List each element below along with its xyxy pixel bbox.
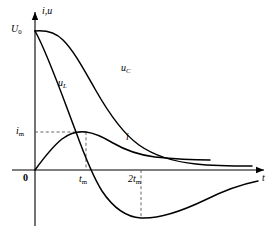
- curve-label-uC-sub: C: [126, 67, 131, 74]
- y-tick-label-U0: U0: [11, 24, 22, 34]
- curve-uL: [35, 31, 258, 218]
- curve-label-i: i: [126, 132, 129, 142]
- curve-uC: [35, 31, 252, 166]
- y-tick-U0-sub: 0: [18, 28, 21, 35]
- curve-label-uC: uC: [121, 63, 131, 73]
- y-axis-label: i,u: [42, 6, 52, 16]
- curve-label-uL: uL: [58, 78, 67, 88]
- y-tick-label-im: im: [16, 126, 24, 136]
- x-tick-label-tm: tm: [79, 174, 87, 184]
- y-axis-arrowhead: [32, 12, 38, 20]
- axes-group: [12, 12, 264, 226]
- plot-canvas: [0, 0, 277, 234]
- x-axis-label: t: [262, 173, 265, 183]
- x-tick-label-2tm: 2tm: [128, 174, 141, 184]
- x-tick-tm-sub: m: [82, 178, 87, 185]
- curve-label-i-main: i: [126, 131, 129, 142]
- transient-response-figure: i,u t 0 U0 im tm 2tm uC uL i: [0, 0, 277, 234]
- x-tick-2tm-sub: m: [136, 178, 141, 185]
- curves-group: [35, 31, 258, 218]
- reference-lines-group: [35, 132, 141, 218]
- y-tick-im-sub: m: [19, 130, 24, 137]
- origin-label: 0: [23, 173, 28, 183]
- x-tick-2tm-main: 2t: [128, 173, 136, 184]
- curve-i: [35, 132, 210, 170]
- curve-label-uL-sub: L: [63, 82, 67, 89]
